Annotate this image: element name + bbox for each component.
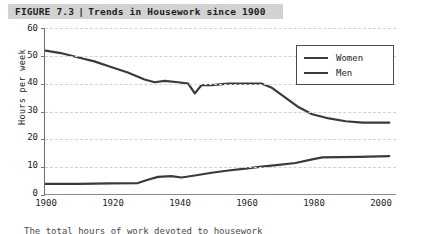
legend-label-men: Men	[336, 68, 352, 78]
x-tick-1980: 1980	[294, 198, 334, 208]
figure-container: FIGURE 7.3 | Trends in Housework since 1…	[0, 0, 422, 234]
gridline-60	[45, 28, 396, 29]
legend-item-women: Women	[297, 50, 393, 65]
legend-line-icon-women	[304, 57, 328, 59]
legend-label-women: Women	[336, 53, 363, 63]
figure-number: FIGURE 7.3	[15, 6, 74, 17]
y-tick-40: 40	[16, 77, 38, 87]
legend-line-icon-men	[304, 72, 328, 74]
x-tick-2000: 2000	[361, 198, 401, 208]
x-tick-1960: 1960	[227, 198, 267, 208]
x-tick-1940: 1940	[160, 198, 200, 208]
y-tick-10: 10	[16, 160, 38, 170]
figure-caption: The total hours of work devoted to house…	[24, 226, 404, 234]
y-tick-20: 20	[16, 132, 38, 142]
series-line-men	[44, 156, 389, 184]
y-tickmark-10	[41, 167, 45, 168]
gridline-20	[45, 139, 396, 140]
chart-legend: Women Men	[296, 45, 394, 85]
y-tickmark-60	[41, 28, 45, 29]
chart-plot-area: Hours per week 60 50 40 30 20 10 0	[0, 20, 422, 220]
y-tickmark-30	[41, 112, 45, 113]
y-tick-50: 50	[16, 50, 38, 60]
legend-item-men: Men	[297, 65, 393, 80]
x-axis-tick-labels: 1900 1920 1940 1960 1980 2000	[44, 198, 396, 212]
figure-title-banner: FIGURE 7.3 | Trends in Housework since 1…	[8, 4, 283, 19]
x-axis-line	[44, 194, 396, 195]
y-tickmark-50	[41, 56, 45, 57]
figure-title-separator: |	[78, 6, 84, 17]
figure-title: Trends in Housework since 1900	[88, 6, 266, 17]
y-axis-tick-labels: 60 50 40 30 20 10 0	[10, 20, 38, 195]
x-tick-1920: 1920	[93, 198, 133, 208]
gridline-10	[45, 167, 396, 168]
x-tick-1900: 1900	[26, 198, 66, 208]
gridline-30	[45, 112, 396, 113]
y-tickmark-0	[41, 195, 45, 196]
y-tick-30: 30	[16, 105, 38, 115]
y-tick-60: 60	[16, 23, 38, 33]
y-tickmark-20	[41, 139, 45, 140]
y-tick-0: 0	[16, 188, 38, 198]
y-tickmark-40	[41, 84, 45, 85]
